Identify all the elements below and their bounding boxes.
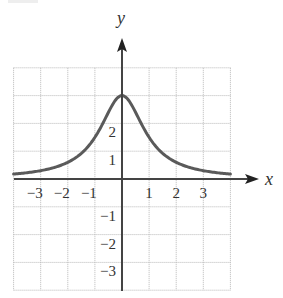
axes [14,38,259,291]
function-graph: −3−2−1123−3−2−112 x y [0,0,283,298]
x-tick-label: 2 [172,185,180,201]
tick-labels: −3−2−1123−3−2−112 [27,124,207,279]
y-tick-label: 2 [109,124,117,140]
x-tick-label: −1 [81,185,97,201]
x-tick-label: 1 [145,185,153,201]
x-tick-label: −3 [27,185,43,201]
y-tick-label: −3 [100,263,116,279]
x-tick-label: 3 [200,185,208,201]
y-tick-label: 1 [109,152,117,168]
y-tick-label: −2 [100,236,116,252]
y-axis-label: y [115,8,125,28]
x-tick-label: −2 [54,185,70,201]
y-tick-label: −1 [100,208,116,224]
x-axis-label: x [264,169,273,189]
